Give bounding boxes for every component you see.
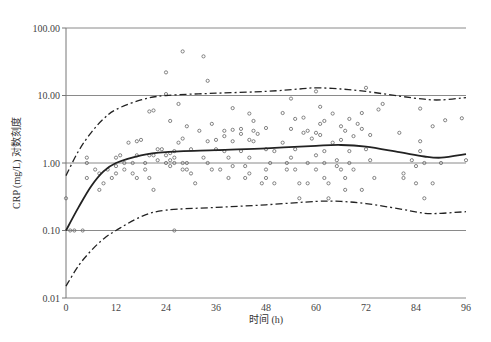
data-point — [135, 140, 138, 143]
y-axis-label: CRP (mg/L) 对数刻度 — [10, 117, 23, 209]
data-point — [260, 182, 263, 185]
data-point — [164, 71, 167, 74]
data-point — [294, 117, 297, 120]
data-point — [360, 188, 363, 191]
x-axis-label: 时间 (h) — [249, 313, 283, 326]
x-tick-label: 48 — [261, 302, 271, 313]
data-point — [431, 125, 434, 128]
data-point — [302, 116, 305, 119]
data-point — [327, 182, 330, 185]
data-point — [327, 197, 330, 200]
y-tick-label: 1.00 — [43, 158, 61, 169]
data-point — [123, 168, 126, 171]
data-point — [335, 164, 338, 167]
data-point — [227, 156, 230, 159]
x-tick-label: 96 — [461, 302, 471, 313]
data-point — [102, 182, 105, 185]
x-tick-label: 0 — [64, 302, 69, 313]
data-point — [410, 159, 413, 162]
data-point — [164, 154, 167, 157]
data-point — [352, 135, 355, 138]
interval-curve — [66, 201, 466, 286]
data-point — [348, 117, 351, 120]
data-point — [298, 197, 301, 200]
data-point — [281, 141, 284, 144]
data-point — [152, 109, 155, 112]
data-point — [219, 168, 222, 171]
data-point — [264, 126, 267, 129]
data-point — [314, 154, 317, 157]
data-point — [231, 107, 234, 110]
data-point — [310, 137, 313, 140]
data-point — [402, 172, 405, 175]
x-tick-label: 84 — [411, 302, 421, 313]
data-point — [144, 168, 147, 171]
data-point — [239, 127, 242, 130]
data-point — [252, 119, 255, 122]
data-point — [185, 168, 188, 171]
data-point — [319, 133, 322, 136]
data-point — [177, 141, 180, 144]
data-point — [302, 131, 305, 134]
data-point — [223, 129, 226, 132]
data-point — [210, 122, 213, 125]
data-point — [248, 138, 251, 141]
data-point — [202, 156, 205, 159]
x-tick-label: 12 — [111, 302, 121, 313]
data-point — [231, 128, 234, 131]
data-point — [294, 148, 297, 151]
data-point — [273, 182, 276, 185]
data-point — [323, 150, 326, 153]
data-point — [419, 140, 422, 143]
data-point — [231, 164, 234, 167]
data-point — [156, 148, 159, 151]
data-point — [114, 172, 117, 175]
data-point — [181, 168, 184, 171]
data-point — [419, 107, 422, 110]
data-point — [202, 55, 205, 58]
data-point — [314, 90, 317, 93]
data-point — [414, 182, 417, 185]
data-point — [135, 176, 138, 179]
data-point — [210, 168, 213, 171]
data-point — [289, 97, 292, 100]
data-point — [285, 168, 288, 171]
data-point — [314, 168, 317, 171]
data-point — [239, 132, 242, 135]
data-point — [339, 168, 342, 171]
data-point — [381, 102, 384, 105]
crp-chart: 0.010.101.0010.00100.0001224364860728496… — [0, 0, 491, 342]
data-point — [252, 129, 255, 132]
data-point — [148, 176, 151, 179]
data-point — [356, 122, 359, 125]
data-point — [364, 86, 367, 89]
data-point — [131, 172, 134, 175]
data-point — [185, 125, 188, 128]
series-layer — [64, 50, 467, 286]
data-point — [214, 138, 217, 141]
data-point — [94, 168, 97, 171]
data-point — [339, 138, 342, 141]
data-point — [85, 156, 88, 159]
data-point — [194, 182, 197, 185]
data-point — [206, 79, 209, 82]
data-point — [98, 188, 101, 191]
data-point — [360, 111, 363, 114]
data-point — [256, 132, 259, 135]
data-point — [169, 164, 172, 167]
data-point — [423, 197, 426, 200]
data-point — [369, 133, 372, 136]
data-point — [289, 127, 292, 130]
data-point — [169, 119, 172, 122]
data-point — [264, 176, 267, 179]
data-point — [119, 154, 122, 157]
data-point — [323, 119, 326, 122]
data-point — [344, 129, 347, 132]
data-point — [348, 150, 351, 153]
data-point — [173, 156, 176, 159]
data-point — [248, 156, 251, 159]
data-point — [360, 127, 363, 130]
data-point — [364, 148, 367, 151]
data-point — [444, 119, 447, 122]
y-tick-label: 0.01 — [43, 293, 61, 304]
